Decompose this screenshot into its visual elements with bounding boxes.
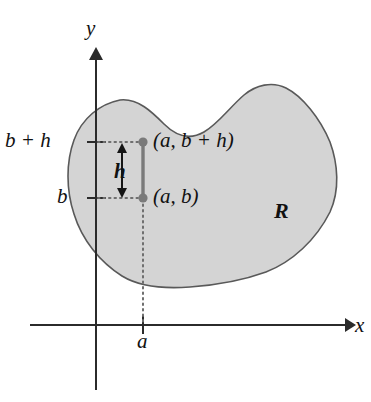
region-shape [68, 84, 337, 287]
math-figure: y x a b b + h h (a, b) (a, b + h) R [0, 0, 371, 402]
region-label-R: R [274, 200, 289, 222]
point-a-b-plus-h [138, 137, 147, 146]
point-label-a-b-plus-h: (a, b + h) [153, 130, 234, 151]
y-tick-label-b-plus-h: b + h [5, 130, 51, 151]
y-axis-arrowhead [89, 47, 103, 60]
y-tick-label-b: b [57, 186, 68, 207]
x-tick-label-a: a [137, 331, 148, 352]
point-label-a-b: (a, b) [153, 186, 199, 207]
point-a-b [138, 193, 147, 202]
x-axis-label: x [355, 315, 364, 336]
y-axis-label: y [86, 18, 95, 39]
h-measure-label: h [114, 161, 126, 182]
